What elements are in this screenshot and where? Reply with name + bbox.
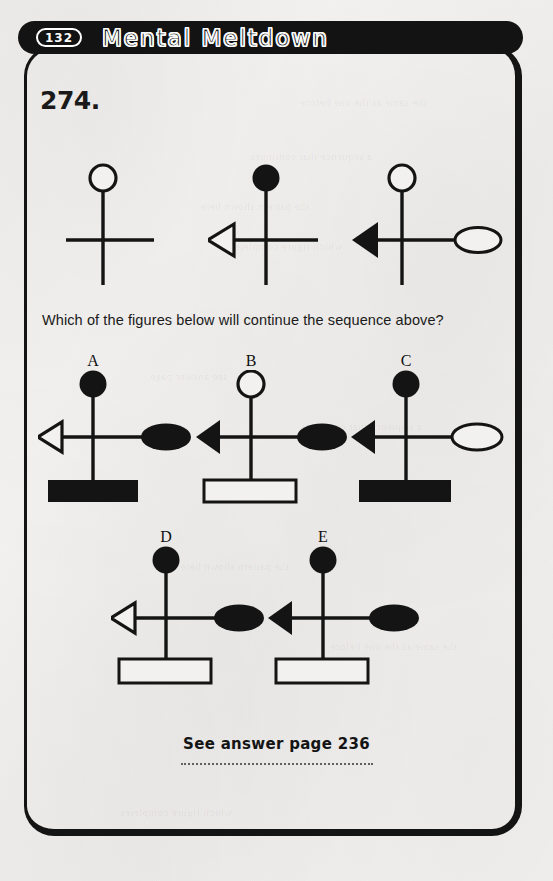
option-c-graphic: [351, 370, 521, 510]
sequence-figure-2: [208, 160, 358, 310]
head-hollow-circle: [90, 165, 116, 191]
answer-underline: [181, 763, 373, 765]
right-arm-hollow-ellipse: [455, 228, 501, 253]
sequence-figure-3: [352, 160, 502, 310]
question-prompt: Which of the figures below will continue…: [42, 312, 444, 328]
head-filled-circle: [310, 547, 337, 574]
puzzle-page: the same as the one before a sequence th…: [0, 0, 553, 881]
page-header-bar: 132 Mental Meltdown: [18, 21, 523, 54]
figure-1-graphic: [58, 160, 208, 310]
option-label-c: C: [391, 352, 421, 370]
left-arm-hollow-arrow: [208, 224, 234, 256]
option-label-d: D: [151, 528, 181, 546]
left-arm-filled-arrow: [268, 601, 292, 635]
head-filled-circle: [253, 165, 280, 192]
option-figure-c[interactable]: [351, 370, 521, 520]
page-number-badge: 132: [36, 28, 82, 47]
right-arm-filled-ellipse: [369, 605, 419, 632]
option-d-graphic: [111, 546, 281, 691]
question-number: 274.: [40, 86, 100, 115]
option-e-graphic: [268, 546, 438, 691]
option-label-a: A: [78, 352, 108, 370]
option-figure-d[interactable]: [111, 546, 281, 696]
right-arm-hollow-ellipse: [452, 424, 502, 450]
right-arm-filled-ellipse: [297, 424, 347, 451]
right-arm-filled-ellipse: [141, 424, 191, 451]
option-b-graphic: [196, 370, 366, 510]
left-arm-hollow-arrow: [111, 603, 135, 633]
base-filled-rect: [48, 480, 138, 502]
figure-3-graphic: [352, 160, 522, 310]
option-figure-a[interactable]: [38, 370, 208, 520]
head-hollow-circle: [238, 371, 264, 397]
answer-reference-text: See answer page 236: [183, 735, 370, 753]
option-label-e: E: [308, 528, 338, 546]
left-arm-filled-arrow: [351, 420, 375, 454]
option-figure-b[interactable]: [196, 370, 366, 520]
left-arm-filled-arrow: [352, 222, 378, 258]
left-arm-filled-arrow: [196, 420, 220, 454]
head-filled-circle: [393, 371, 420, 398]
base-filled-rect: [359, 480, 451, 502]
option-a-graphic: [38, 370, 208, 510]
page-title: Mental Meltdown: [102, 25, 329, 51]
head-filled-circle: [80, 371, 107, 398]
figure-2-graphic: [208, 160, 368, 310]
base-hollow-rect: [119, 659, 211, 683]
base-hollow-rect: [204, 480, 296, 502]
left-arm-hollow-arrow: [38, 422, 62, 452]
head-hollow-circle: [389, 165, 415, 191]
right-arm-filled-ellipse: [214, 605, 264, 632]
sequence-figure-1: [58, 160, 208, 310]
option-figure-e[interactable]: [268, 546, 438, 696]
answer-reference: See answer page 236: [0, 735, 553, 765]
head-filled-circle: [153, 547, 180, 574]
base-hollow-rect: [276, 659, 368, 683]
option-label-b: B: [236, 352, 266, 370]
